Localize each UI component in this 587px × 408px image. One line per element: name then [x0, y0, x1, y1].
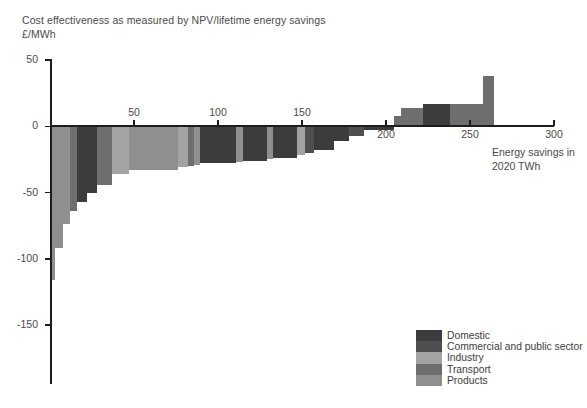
bar	[200, 126, 237, 163]
legend-item: Products	[416, 375, 583, 386]
legend-label: Domestic	[447, 330, 490, 341]
legend-swatch	[416, 330, 442, 341]
bar	[87, 126, 97, 192]
y-axis-tick	[45, 59, 50, 61]
x-axis-tick	[217, 120, 219, 126]
y-axis-line	[50, 59, 52, 384]
annotation-line1: Energy savings in	[492, 146, 587, 160]
y-axis-tick-label: -50	[0, 187, 38, 197]
bar	[97, 126, 112, 184]
x-axis-tick	[301, 120, 303, 126]
x-axis-tick-label: 150	[282, 106, 322, 118]
bar	[243, 126, 267, 160]
legend-item: Domestic	[416, 330, 583, 341]
bar	[129, 126, 178, 170]
legend-swatch	[416, 352, 442, 363]
x-axis-tick-label: 100	[198, 106, 238, 118]
y-axis-tick-label: 50	[0, 54, 38, 64]
bar	[70, 126, 77, 211]
legend-item: Transport	[416, 364, 583, 375]
legend-item: Industry	[416, 352, 583, 363]
bar	[314, 126, 334, 150]
y-axis-tick	[45, 324, 50, 326]
x-axis-tick-label: 200	[366, 128, 406, 140]
bar	[483, 76, 493, 126]
legend-swatch	[416, 375, 442, 386]
bar	[450, 104, 484, 127]
y-axis-tick	[45, 126, 50, 128]
y-axis-tick-label: 0	[0, 120, 38, 130]
legend-swatch	[416, 341, 442, 352]
y-axis-tick-label: -150	[0, 319, 38, 329]
x-axis-tick	[385, 120, 387, 126]
x-axis-tick	[553, 120, 555, 126]
x-axis-tick	[469, 120, 471, 126]
x-axis-annotation: Energy savings in 2020 TWh	[492, 146, 587, 173]
x-axis-tick-label: 50	[114, 106, 154, 118]
bar	[112, 126, 129, 174]
x-axis-tick-label: 300	[534, 128, 574, 140]
legend-label: Transport	[447, 364, 491, 375]
legend-item: Commercial and public sector	[416, 341, 583, 352]
annotation-line2: 2020 TWh	[492, 160, 587, 174]
y-axis-tick-label: -100	[0, 253, 38, 263]
x-axis-tick-label: 250	[450, 128, 490, 140]
x-axis-line	[50, 125, 554, 127]
bar	[401, 108, 423, 127]
legend-label: Industry	[447, 352, 484, 363]
chart-root: Cost effectiveness as measured by NPV/li…	[0, 0, 587, 408]
y-axis-tick	[45, 192, 50, 194]
bar	[55, 126, 63, 248]
bar	[334, 126, 349, 141]
y-axis-tick	[45, 258, 50, 260]
bar	[188, 126, 195, 166]
bar	[236, 126, 243, 162]
legend-swatch	[416, 364, 442, 375]
chart-legend: DomesticCommercial and public sectorIndu…	[416, 330, 583, 386]
bar	[267, 126, 274, 159]
legend-label: Commercial and public sector	[447, 341, 583, 352]
bar	[77, 126, 87, 202]
bar	[63, 126, 70, 224]
bar	[349, 126, 364, 135]
bar	[273, 126, 297, 158]
bar	[297, 126, 305, 155]
bar	[305, 126, 313, 153]
bar	[423, 104, 450, 127]
legend-label: Products	[447, 375, 488, 386]
x-axis-tick	[133, 120, 135, 126]
bar	[178, 126, 188, 167]
